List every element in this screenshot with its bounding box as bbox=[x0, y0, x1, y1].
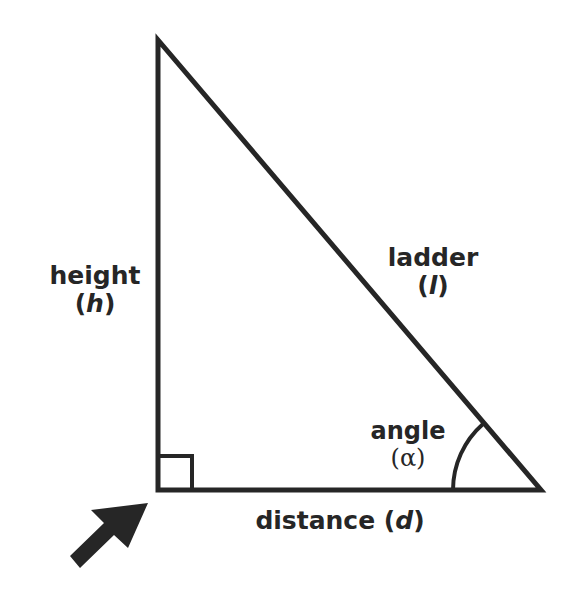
ladder-label: ladder (l) bbox=[378, 244, 488, 300]
distance-label: distance (d) bbox=[245, 507, 435, 535]
angle-word: angle bbox=[358, 418, 458, 445]
height-word: height bbox=[40, 262, 150, 290]
ladder-symbol: l bbox=[429, 271, 438, 300]
distance-word: distance bbox=[255, 506, 375, 535]
right-angle-marker bbox=[158, 456, 192, 490]
height-symbol-line: (h) bbox=[40, 290, 150, 318]
height-label: height (h) bbox=[40, 262, 150, 318]
angle-label: angle (α) bbox=[358, 418, 458, 472]
angle-symbol-line: (α) bbox=[358, 445, 458, 472]
distance-symbol: d bbox=[395, 506, 413, 535]
ladder-symbol-line: (l) bbox=[378, 272, 488, 300]
angle-symbol: α bbox=[400, 444, 416, 472]
arrow-icon bbox=[70, 503, 148, 568]
ladder-word: ladder bbox=[378, 244, 488, 272]
height-symbol: h bbox=[86, 289, 104, 318]
